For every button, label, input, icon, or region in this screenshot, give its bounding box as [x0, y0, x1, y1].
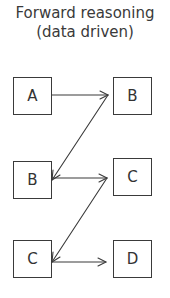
- node-b-left: B: [13, 161, 52, 199]
- node-label: C: [27, 250, 37, 268]
- node-c-right: C: [113, 158, 152, 196]
- node-d-right: D: [113, 240, 152, 278]
- node-c-left: C: [13, 240, 52, 278]
- node-label: A: [27, 87, 37, 105]
- edge-c-to-d: [51, 258, 106, 266]
- edge-c-right-to-c-left: [52, 178, 107, 262]
- edge-b-right-to-b-left: [52, 95, 108, 180]
- node-b-right: B: [113, 77, 152, 115]
- edge-a-to-b: [51, 91, 108, 99]
- node-label: B: [127, 87, 137, 105]
- node-label: C: [127, 168, 137, 186]
- node-label: B: [27, 171, 37, 189]
- node-label: D: [127, 250, 139, 268]
- node-a-left: A: [13, 77, 52, 115]
